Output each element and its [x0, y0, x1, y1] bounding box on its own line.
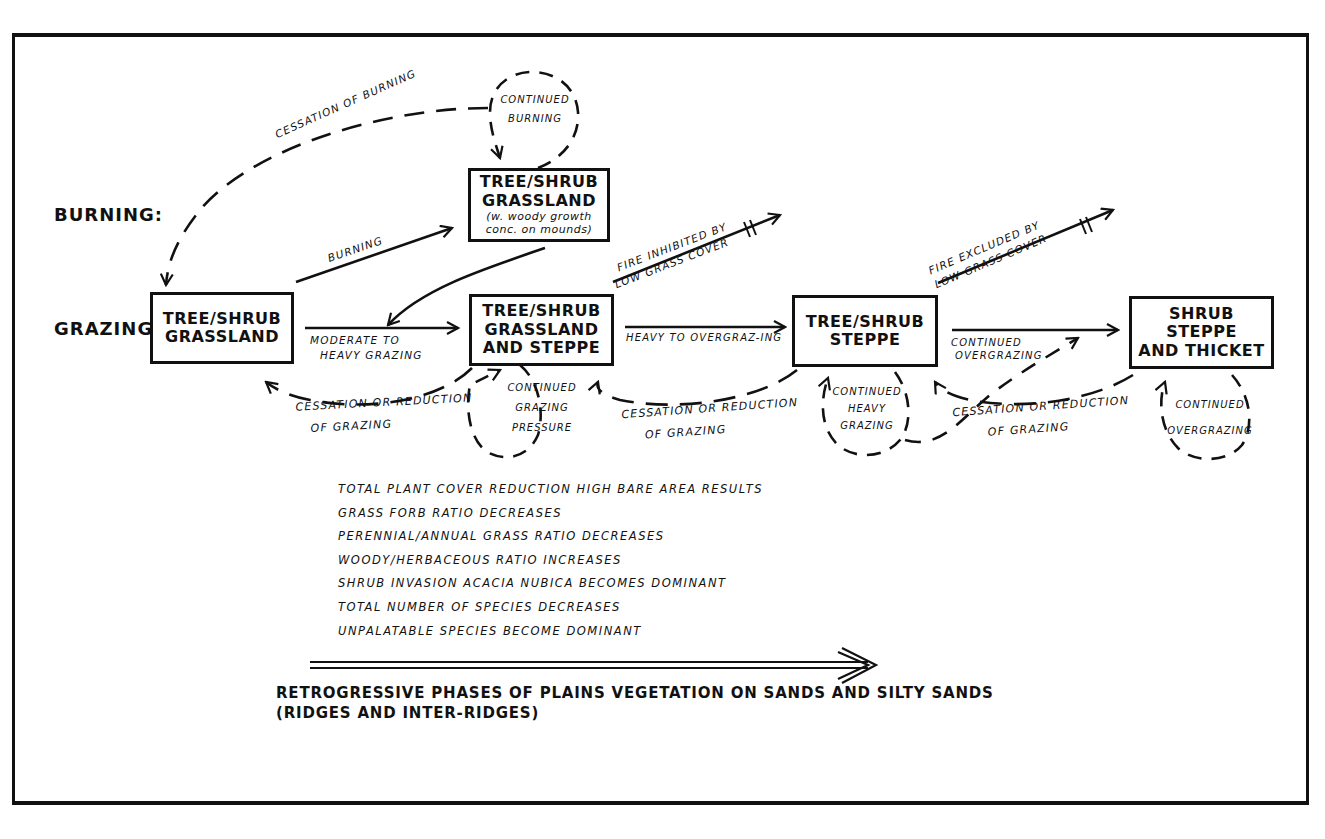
cessation-of-burning-arrow — [166, 108, 488, 285]
label-continued-burning: CONTINUED BURNING — [500, 90, 570, 128]
label-continued-grazing-pressure: CONTINUED GRAZING PRESSURE — [507, 378, 577, 438]
effect-item: UNPALATABLE SPECIES BECOME DOMINANT — [338, 620, 763, 644]
retrogression-double-arrow — [310, 648, 876, 683]
state-title: GRASSLAND — [165, 328, 279, 346]
label-heavy-to-overgrazing: HEAVY TO OVERGRAZ-ING — [626, 332, 782, 343]
state-title: STEPPE — [830, 331, 901, 349]
state-title: TREE/SHRUB — [806, 313, 924, 331]
label-line: HEAVY GRAZING — [310, 348, 423, 363]
label-line: GRAZING — [507, 398, 577, 418]
state-tree-shrub-steppe: TREE/SHRUB STEPPE — [792, 295, 938, 367]
caption-line: (RIDGES AND INTER-RIDGES) — [276, 703, 994, 723]
effect-item: TOTAL PLANT COVER REDUCTION HIGH BARE AR… — [338, 478, 763, 502]
state-title: SHRUB STEPPE — [1132, 305, 1271, 342]
state-title: AND THICKET — [1138, 342, 1264, 360]
label-continued-overgrazing-transition: CONTINUED OVERGRAZING — [951, 336, 1043, 362]
label-line: BURNING — [500, 109, 570, 128]
label-continued-heavy-grazing: CONTINUED HEAVY GRAZING — [832, 383, 902, 434]
label-line: CONTINUED — [500, 90, 570, 109]
label-moderate-to-heavy-grazing: MODERATE TO HEAVY GRAZING — [310, 333, 423, 363]
label-line: MODERATE TO — [310, 333, 423, 348]
label-line: OVERGRAZING — [951, 349, 1043, 362]
label-line: CONTINUED — [951, 336, 1043, 349]
label-line: OVERGRAZING — [1165, 418, 1255, 444]
state-tree-shrub-grassland-burned: TREE/SHRUB GRASSLAND (w. woody growth co… — [468, 168, 610, 242]
state-tree-shrub-grassland-and-steppe: TREE/SHRUB GRASSLAND AND STEPPE — [469, 294, 614, 366]
label-line: CONTINUED — [1165, 392, 1255, 418]
state-shrub-steppe-and-thicket: SHRUB STEPPE AND THICKET — [1129, 296, 1274, 369]
effects-list: TOTAL PLANT COVER REDUCTION HIGH BARE AR… — [338, 478, 763, 643]
effect-item: WOODY/HERBACEOUS RATIO INCREASES — [338, 549, 763, 573]
caption-line: RETROGRESSIVE PHASES OF PLAINS VEGETATIO… — [276, 683, 994, 703]
label-line: GRAZING — [832, 417, 902, 434]
state-title: TREE/SHRUB — [480, 173, 598, 191]
effect-item: GRASS FORB RATIO DECREASES — [338, 502, 763, 526]
label-line: HEAVY — [832, 400, 902, 417]
state-note: (w. woody growth — [486, 210, 592, 223]
state-title: TREE/SHRUB — [163, 310, 281, 328]
state-title: TREE/SHRUB — [482, 302, 600, 320]
row-label-grazing: GRAZING: — [54, 318, 161, 339]
state-title: GRASSLAND — [482, 192, 596, 210]
label-continued-overgrazing-loop: CONTINUED OVERGRAZING — [1165, 392, 1255, 444]
label-cessation-reduction-1: CESSATION OR REDUCTION OF GRAZING — [295, 387, 474, 440]
state-title: GRASSLAND — [485, 321, 599, 339]
effect-item: SHRUB INVASION ACACIA NUBICA BECOMES DOM… — [338, 572, 763, 596]
effect-item: PERENNIAL/ANNUAL GRASS RATIO DECREASES — [338, 525, 763, 549]
state-tree-shrub-grassland: TREE/SHRUB GRASSLAND — [150, 292, 294, 364]
effect-item: TOTAL NUMBER OF SPECIES DECREASES — [338, 596, 763, 620]
label-line: CONTINUED — [832, 383, 902, 400]
figure-caption: RETROGRESSIVE PHASES OF PLAINS VEGETATIO… — [276, 683, 994, 723]
label-line: CONTINUED — [507, 378, 577, 398]
state-note: conc. on mounds) — [486, 223, 592, 236]
label-line: PRESSURE — [507, 418, 577, 438]
state-title: AND STEPPE — [483, 339, 600, 357]
row-label-burning: BURNING: — [54, 204, 163, 225]
